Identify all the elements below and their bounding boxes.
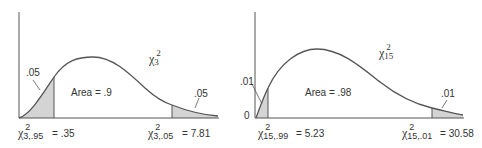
right-tail-area-label: .05 bbox=[194, 89, 208, 99]
critical-value: = 30.58 bbox=[440, 128, 474, 139]
right-tail-area-label: .01 bbox=[441, 89, 455, 99]
right-leader bbox=[442, 100, 447, 108]
df-subscript: 3 bbox=[154, 57, 159, 67]
distribution-label: χ23 bbox=[149, 50, 172, 70]
left-leader bbox=[252, 84, 262, 104]
right-critical-label: χ23,.05 = 7.81 bbox=[148, 124, 210, 144]
right-critical-label: χ215,.01 = 30.58 bbox=[402, 124, 474, 144]
chart-df15 bbox=[252, 12, 464, 118]
df-subscript: 15 bbox=[384, 51, 393, 61]
density-curve bbox=[256, 49, 463, 118]
left-tail-area-label: .05 bbox=[26, 68, 40, 78]
origin-label: 0 bbox=[244, 111, 250, 121]
subscript: 15,.99 bbox=[263, 131, 288, 141]
left-critical-label: χ23,.95 = .35 bbox=[18, 124, 75, 144]
critical-value: = 5.23 bbox=[296, 128, 324, 139]
left-leader bbox=[33, 80, 40, 90]
center-area-label: Area = .9 bbox=[71, 88, 112, 98]
left-tail-area-label: .01 bbox=[240, 77, 254, 87]
subscript: 15,.01 bbox=[407, 131, 432, 141]
left-tail-shade bbox=[19, 77, 54, 118]
subscript: 3,.05 bbox=[153, 131, 173, 141]
critical-value: = 7.81 bbox=[182, 128, 210, 139]
critical-value: = .35 bbox=[52, 128, 75, 139]
center-area-label: Area = .98 bbox=[305, 88, 351, 98]
left-critical-label: χ215,.99 = 5.23 bbox=[258, 124, 324, 144]
right-leader bbox=[195, 98, 199, 108]
distribution-label: χ215 bbox=[379, 44, 402, 64]
chart-df3 bbox=[19, 12, 219, 118]
subscript: 3,.95 bbox=[23, 131, 43, 141]
